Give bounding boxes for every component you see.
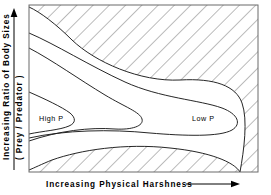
region-label-low-p: Low P <box>192 114 214 123</box>
figure-container: Increasing Ratio of Body Sizes ( Prey / … <box>0 0 271 195</box>
region-label-high-p: High P <box>39 114 64 123</box>
conceptual-diagram-svg: Increasing Ratio of Body Sizes ( Prey / … <box>0 0 271 195</box>
y-axis-label-line1: Increasing Ratio of Body Sizes <box>2 13 11 160</box>
x-axis-arrow <box>186 181 240 187</box>
y-axis-label-line2: ( Prey / Predator ) <box>15 75 24 160</box>
x-axis-label: Increasing Physical Harshness <box>46 180 193 189</box>
high-p-lobe-path <box>29 92 74 134</box>
innermost-contour-high-p <box>29 92 74 134</box>
